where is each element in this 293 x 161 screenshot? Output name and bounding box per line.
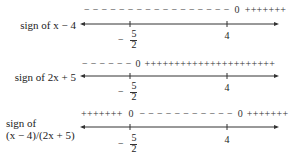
- tick-neg-five-halves: − 5 2: [118, 81, 142, 103]
- row-sign-x-minus-4: − − − − − − − − − − − − − − − − − 0 ++++…: [0, 0, 293, 53]
- tick-four: 4: [217, 30, 237, 41]
- tick-neg-five-halves: − 5 2: [118, 133, 142, 155]
- tick-four: 4: [217, 134, 237, 145]
- row-sign-quotient: +++++++ 0 − − − − − − − − − − − 0 ++++++…: [0, 105, 293, 161]
- number-line: [0, 55, 293, 105]
- row-sign-2x-plus-5: − − − − − − 0 ++++++++++++++++++++++ sig…: [0, 55, 293, 105]
- tick-neg-five-halves: − 5 2: [118, 29, 142, 51]
- number-line: [0, 0, 293, 53]
- tick-four: 4: [217, 82, 237, 93]
- number-line: [0, 105, 293, 161]
